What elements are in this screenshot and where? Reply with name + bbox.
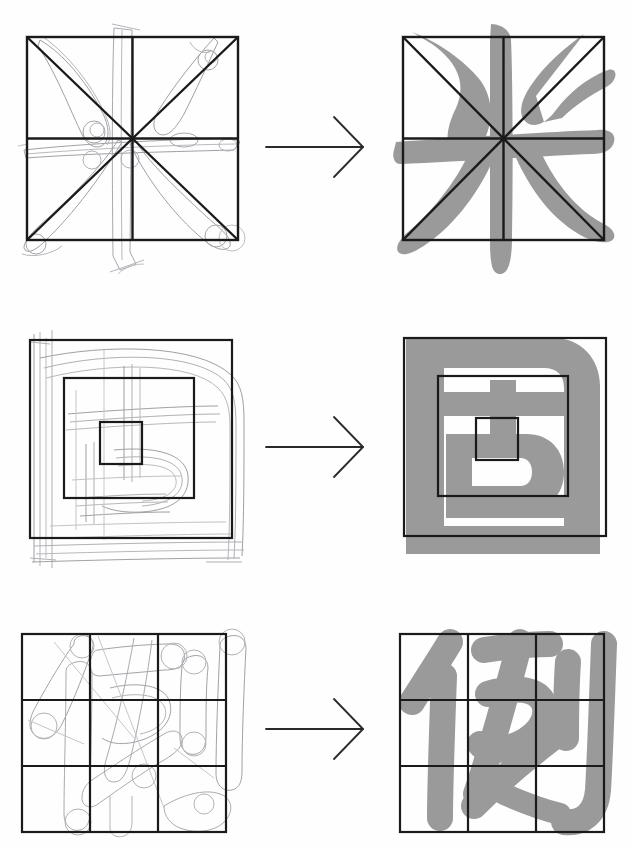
construction-row: 固 solid, firm: [0, 300, 633, 590]
nine-square-grid: [22, 634, 226, 832]
construction-row: 米 rice: [0, 0, 633, 290]
finished-glyph-pane[interactable]: [392, 628, 618, 840]
proportion-grid-quartered-diagonal: [27, 37, 238, 240]
transform-arrow: →: [262, 690, 382, 772]
worksheet-sheet: 米 rice: [0, 0, 633, 846]
sketch-pane[interactable]: [14, 628, 254, 840]
proportion-grid-quartered-diagonal: [403, 37, 604, 240]
pencil-sketch-strokes: [30, 330, 244, 568]
finished-glyph-pane[interactable]: [394, 330, 618, 570]
transform-arrow: →: [262, 408, 382, 490]
glyph-strokes-gu: [406, 338, 600, 554]
pencil-sketch-strokes: [28, 629, 246, 837]
glyph-strokes-li: [412, 642, 604, 822]
nested-square-grid: [30, 340, 232, 538]
construction-row: 例 example: [0, 600, 633, 846]
transform-arrow: →: [262, 108, 382, 190]
sketch-pane[interactable]: [18, 24, 258, 274]
finished-glyph-pane[interactable]: [394, 24, 618, 274]
sketch-pane[interactable]: [16, 330, 256, 570]
